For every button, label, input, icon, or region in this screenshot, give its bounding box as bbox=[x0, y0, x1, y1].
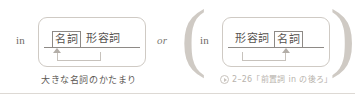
right-modifier-bracket bbox=[242, 52, 286, 61]
right-preposition: in bbox=[200, 34, 209, 46]
separator-or: or bbox=[157, 34, 167, 46]
circled-play-arrow-icon bbox=[220, 75, 229, 84]
left-modifier-arrow-icon bbox=[53, 48, 61, 53]
left-slot-adjective: 形容詞 bbox=[86, 32, 121, 45]
right-slot-noun: 名詞 bbox=[274, 31, 303, 48]
right-caption-reference: 2–26「前置詞 in の後ろ」 bbox=[232, 73, 332, 84]
left-modifier-bracket bbox=[57, 52, 101, 61]
group-paren-right: ) bbox=[330, 0, 355, 74]
grammar-figure: in 名詞 形容詞 大きな名詞のかたまり or ( in 形容詞 名詞 ) 2–… bbox=[0, 0, 355, 94]
right-modifier-arrow-icon bbox=[282, 48, 290, 53]
left-slot-noun: 名詞 bbox=[52, 31, 81, 48]
left-preposition: in bbox=[16, 34, 25, 46]
right-slot-adjective: 形容詞 bbox=[235, 32, 270, 45]
left-caption: 大きな名詞のかたまり bbox=[41, 73, 137, 86]
